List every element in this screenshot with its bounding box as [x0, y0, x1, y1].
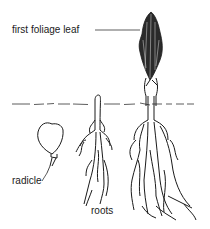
seedling-drawing — [130, 12, 196, 220]
young-seedling-drawing — [76, 95, 112, 206]
seed-drawing — [38, 123, 63, 173]
radicle-pointer — [42, 173, 47, 181]
germination-diagram: first foliage leaf radicle roots — [0, 0, 210, 229]
label-first-foliage-leaf: first foliage leaf — [12, 25, 79, 35]
soil-line — [12, 103, 194, 105]
label-radicle: radicle — [12, 176, 41, 186]
label-roots: roots — [91, 206, 113, 216]
